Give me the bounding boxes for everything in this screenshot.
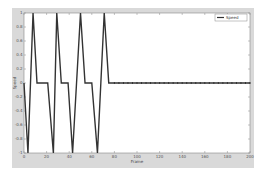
legend-label: Speed — [226, 15, 239, 20]
series-marker — [186, 82, 187, 84]
series-marker — [231, 82, 232, 84]
series-marker — [218, 82, 219, 84]
series-marker — [182, 82, 183, 84]
y-tick-label: 0.4 — [16, 52, 23, 57]
y-tick-label: -0.2 — [15, 94, 23, 99]
y-tick-label: 0.6 — [16, 38, 23, 43]
y-tick-label: 0 — [20, 80, 23, 85]
series-marker — [127, 82, 128, 84]
x-tick-label: 120 — [156, 154, 164, 159]
x-axis-label: Frame — [131, 159, 144, 164]
legend: Speed — [215, 14, 247, 21]
x-tick-label: 200 — [246, 154, 254, 159]
x-tick-label: 20 — [44, 154, 50, 159]
x-tick-label: 80 — [112, 154, 118, 159]
series-marker — [209, 82, 210, 84]
series-marker — [177, 82, 178, 84]
series-marker — [141, 82, 142, 84]
series-marker — [236, 82, 237, 84]
series-marker — [200, 82, 201, 84]
series-marker — [146, 82, 147, 84]
series-marker — [150, 82, 151, 84]
x-tick-label: 140 — [178, 154, 186, 159]
x-tick-label: 0 — [23, 154, 26, 159]
series-marker — [159, 82, 160, 84]
y-tick-label: -0.4 — [15, 108, 23, 113]
y-axis-label: Speed — [12, 76, 17, 89]
series-marker — [204, 82, 205, 84]
series-marker — [195, 82, 196, 84]
line-chart: -1-0.8-0.6-0.4-0.200.20.40.60.81 0204060… — [0, 0, 264, 172]
x-tick-label: 160 — [201, 154, 209, 159]
series-marker — [213, 82, 214, 84]
x-tick-label: 60 — [89, 154, 95, 159]
series-marker — [173, 82, 174, 84]
y-tick-label: 1 — [20, 10, 23, 15]
x-tick-label: 40 — [67, 154, 73, 159]
series-marker — [245, 82, 246, 84]
series-marker — [250, 82, 251, 84]
series-marker — [164, 82, 165, 84]
series-marker — [132, 82, 133, 84]
y-tick-label: 0.2 — [16, 66, 23, 71]
series-marker — [155, 82, 156, 84]
y-tick-label: -0.8 — [15, 136, 23, 141]
series-marker — [227, 82, 228, 84]
series-marker — [118, 82, 119, 84]
series-marker — [137, 82, 138, 84]
series-marker — [168, 82, 169, 84]
series-marker — [123, 82, 124, 84]
x-tick-label: 180 — [224, 154, 232, 159]
y-tick-label: -0.6 — [15, 122, 23, 127]
series-marker — [114, 82, 115, 84]
series-marker — [222, 82, 223, 84]
y-tick-label: 0.8 — [16, 24, 23, 29]
series-marker — [240, 82, 241, 84]
series-marker — [191, 82, 192, 84]
